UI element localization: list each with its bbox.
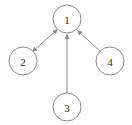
node-1-label: 1	[64, 14, 70, 26]
node-3-label: 3	[64, 102, 70, 114]
edge-4-to-1	[78, 31, 101, 52]
node-2-label: 2	[20, 56, 26, 68]
node-4-label: 4	[107, 56, 113, 68]
graph-diagram: 1 2 3 4	[0, 0, 132, 125]
graph-canvas: 1 2 3 4	[0, 0, 132, 125]
edge-1-2-bidirectional	[33, 30, 58, 52]
